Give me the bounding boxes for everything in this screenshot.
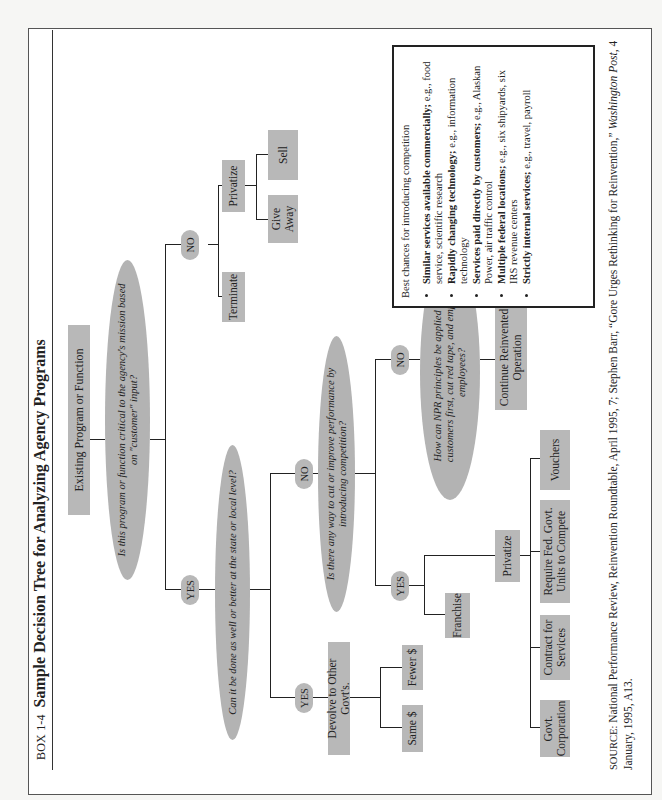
fewer-dollars-node: Fewer $ [402, 645, 423, 690]
q1-yes-label: YES [181, 575, 199, 605]
root-node: Existing Program or Function [68, 325, 90, 515]
info-item-key: Services paid directly by customers; [471, 123, 482, 284]
connector [208, 244, 218, 245]
connector [256, 154, 268, 155]
connector [530, 458, 531, 728]
info-item-key: Multiple federal locations; [496, 166, 507, 284]
info-item-example: e.g., travel, payroll [521, 90, 532, 172]
q2-no-label: NO [295, 459, 313, 489]
connector [409, 585, 424, 586]
connector [150, 439, 165, 440]
connector [165, 244, 166, 590]
privatize-node-b: Privatize [495, 530, 520, 582]
info-item: Similar services available commercially;… [421, 55, 446, 284]
info-item-key: Strictly internal services; [521, 171, 532, 284]
connector [530, 647, 540, 648]
source-publication: Washington Post, [607, 49, 619, 129]
question-mission-critical: Is this program or function critical to … [105, 260, 150, 580]
connector [375, 359, 376, 586]
connector [270, 473, 271, 698]
privatize-node-a: Privatize [222, 160, 245, 212]
source-label: SOURCE: [608, 726, 619, 770]
connector [380, 667, 381, 728]
connector [530, 551, 540, 552]
connector [409, 359, 420, 360]
connector [350, 697, 380, 698]
source-note: SOURCE: National Performance Review, Rei… [606, 35, 636, 770]
give-away-node: Give Away [268, 195, 298, 243]
connector [520, 555, 530, 556]
connector [480, 359, 495, 360]
competition-info-box: Best chances for introducing competition… [392, 45, 595, 308]
connector [530, 458, 540, 459]
connector [530, 727, 540, 728]
info-item-key: Rapidly changing technology; [446, 150, 457, 284]
info-item-key: Similar services available commercially; [421, 104, 432, 284]
connector [270, 473, 295, 474]
connector [199, 589, 215, 590]
info-heading: Best chances for introducing competition [400, 55, 413, 298]
info-item: Multiple federal locations; e.g., six sh… [496, 55, 521, 284]
question-state-local: Can it be done as well or better at the … [215, 445, 250, 740]
q2-yes-label: YES [295, 683, 313, 713]
title-rule [52, 30, 53, 770]
question-competition: Is there any way to cut or improve perfo… [318, 336, 355, 612]
info-list: Similar services available commercially;… [421, 55, 534, 298]
info-item: Strictly internal services; e.g., travel… [521, 55, 534, 284]
connector [245, 185, 256, 186]
continue-reinvented-node: Continue Reinvented Operation [495, 305, 527, 410]
connector [256, 155, 257, 220]
gov-corporation-node: Govt. Corporation [540, 700, 570, 757]
source-text: National Performance Review, Reinvention… [607, 130, 619, 726]
connector [90, 439, 105, 440]
info-item: Rapidly changing technology; e.g., infor… [446, 55, 471, 284]
devolve-node: Devolve to Other Govt's. [328, 642, 350, 755]
vouchers-node: Vouchers [540, 430, 570, 490]
connector [256, 219, 268, 220]
terminate-node: Terminate [222, 272, 245, 322]
connector [380, 727, 402, 728]
same-dollars-node: Same $ [402, 705, 423, 752]
q3-no-label: NO [391, 345, 409, 375]
connector [424, 555, 495, 556]
q3-yes-label: YES [391, 571, 409, 601]
title-text: Sample Decision Tree for Analyzing Agenc… [31, 339, 48, 707]
connector [380, 667, 402, 668]
connector [424, 614, 445, 615]
sell-node: Sell [268, 130, 298, 180]
franchise-node: Franchise [445, 593, 470, 638]
box-number: BOX 1-4 [34, 714, 48, 760]
connector [424, 555, 425, 615]
connector [250, 589, 270, 590]
connector [355, 473, 375, 474]
figure-title: BOX 1-4 Sample Decision Tree for Analyzi… [31, 339, 49, 760]
connector [218, 185, 219, 297]
info-item: Services paid directly by customers; e.g… [471, 55, 496, 284]
contract-services-node: Contract for Services [540, 615, 570, 680]
rotated-page: BOX 1-4 Sample Decision Tree for Analyzi… [0, 0, 662, 800]
q1-no-label: NO [181, 230, 199, 260]
connector [270, 697, 295, 698]
require-compete-node: Require Fed. Govt. Units to Compete [540, 500, 570, 603]
